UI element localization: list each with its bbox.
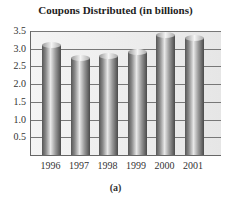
bar-2000 [156, 35, 175, 155]
x-tick-label: 2001 [178, 160, 208, 171]
x-tick-label: 1996 [36, 160, 66, 171]
y-tick-label: 1.5 [0, 96, 26, 107]
y-tick-label: 2.5 [0, 60, 26, 71]
y-tick-label: 0.5 [0, 131, 26, 142]
gridline [31, 31, 221, 32]
bar-1996 [42, 45, 61, 155]
bar-1997 [71, 58, 90, 155]
x-tick-label: 1998 [93, 160, 123, 171]
y-tick-label: 3.5 [0, 25, 26, 36]
bar-1999 [128, 52, 147, 155]
y-tick-label: 2.0 [0, 78, 26, 89]
bar-2001 [185, 38, 204, 155]
chart-caption: (a) [0, 182, 231, 193]
bar-1998 [99, 56, 118, 155]
y-tick-label: 1.0 [0, 114, 26, 125]
plot-area [30, 31, 221, 156]
y-tick-label: 3.0 [0, 43, 26, 54]
x-tick-label: 2000 [150, 160, 180, 171]
x-tick-label: 1999 [121, 160, 151, 171]
x-tick-label: 1997 [64, 160, 94, 171]
chart-title: Coupons Distributed (in billions) [0, 4, 231, 16]
